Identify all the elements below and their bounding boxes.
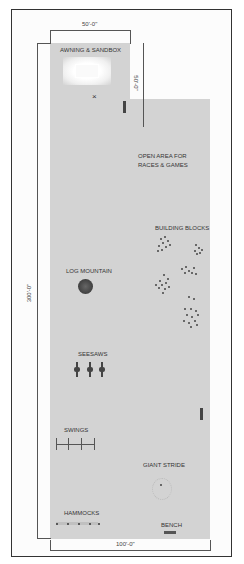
- dimension-tick: [50, 540, 51, 551]
- sandbox-bench-icon: [123, 101, 126, 113]
- log-mountain-icon: [78, 279, 93, 294]
- bottom-width-label: 100'-0": [116, 541, 135, 547]
- top-width-label: 50'-0": [82, 21, 97, 27]
- bench-icon: [164, 531, 176, 534]
- hammocks-label: HAMMOCKS: [64, 510, 99, 517]
- bench-label: BENCH: [161, 522, 182, 529]
- open-area-label-line1: OPEN AREA FOR: [138, 153, 187, 160]
- dimension-tick: [210, 540, 211, 551]
- building-blocks-label: BUILDING BLOCKS: [155, 225, 209, 232]
- seesaws-label: SEESAWS: [78, 351, 107, 358]
- total-height-label: 300'-0": [26, 284, 32, 303]
- dimension-tick: [130, 30, 131, 44]
- seesaw-icon: [74, 367, 80, 372]
- top-height-label: 50'-0": [133, 75, 139, 90]
- left-dimension-line: [37, 43, 38, 539]
- dimension-tick: [37, 538, 51, 539]
- bottom-dimension-line: [50, 550, 210, 551]
- top-dimension-line: [50, 30, 130, 31]
- top-height-dimension-line: [143, 43, 144, 127]
- dimension-tick: [37, 43, 51, 44]
- giant-stride-label: GIANT STRIDE: [143, 462, 185, 469]
- awning-sandbox-label: AWNING & SANDBOX: [60, 47, 121, 54]
- dimension-tick: [50, 30, 51, 44]
- log-mountain-label: LOG MOUNTAIN: [66, 268, 112, 275]
- open-area-label-line2: RACES & GAMES: [138, 162, 188, 169]
- x-mark-icon: ×: [92, 93, 97, 100]
- seesaw-icon: [87, 367, 93, 372]
- side-bench-icon: [200, 408, 203, 420]
- swings-label: SWINGS: [64, 427, 88, 434]
- sandbox-icon: [63, 57, 111, 85]
- seesaw-icon: [99, 367, 105, 372]
